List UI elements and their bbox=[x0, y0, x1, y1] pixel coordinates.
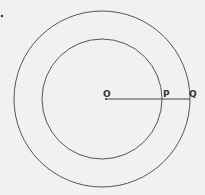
stray-dot bbox=[1, 15, 3, 17]
label-o: O bbox=[103, 89, 111, 99]
label-q: Q bbox=[189, 89, 197, 99]
label-p: P bbox=[163, 89, 170, 99]
concentric-circles-diagram: O P Q bbox=[0, 0, 205, 195]
